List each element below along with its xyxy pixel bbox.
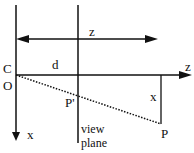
p-prime-label: P'	[65, 95, 75, 110]
d-label: d	[52, 57, 59, 72]
projection-ray	[16, 75, 161, 124]
perspective-diagram: z z C O d P' x P x view plane	[0, 0, 194, 153]
x-axis-arrowhead	[12, 132, 20, 141]
c-label: C	[3, 61, 12, 76]
top-z-label: z	[89, 24, 95, 39]
view-plane-label-line1: view	[81, 122, 105, 136]
z-extent-right-arrowhead	[145, 35, 158, 43]
p-label: P	[161, 126, 168, 141]
view-plane-label-line2: plane	[81, 136, 107, 150]
axis-z-label: z	[185, 59, 191, 74]
axis-x-label: x	[27, 127, 34, 142]
x-segment-label: x	[150, 89, 157, 104]
o-label: O	[3, 78, 12, 93]
z-extent-left-arrowhead	[16, 35, 29, 43]
